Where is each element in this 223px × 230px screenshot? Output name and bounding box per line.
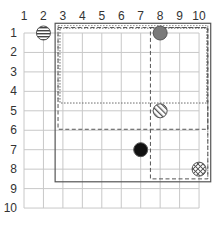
horizontal-striped-circle-icon bbox=[36, 26, 50, 40]
row-label: 9 bbox=[10, 182, 17, 196]
dashed-rect-wide bbox=[58, 28, 208, 130]
black-filled-circle-icon bbox=[134, 143, 148, 157]
grid-canvas: 12345678910 12345678910 bbox=[0, 0, 223, 230]
row-label: 8 bbox=[10, 162, 17, 176]
row-label: 2 bbox=[10, 45, 17, 59]
row-label: 7 bbox=[10, 143, 17, 157]
column-label: 4 bbox=[79, 9, 86, 23]
row-label: 10 bbox=[4, 201, 18, 215]
column-label: 2 bbox=[40, 9, 47, 23]
row-label: 3 bbox=[10, 65, 17, 79]
row-label: 6 bbox=[10, 123, 17, 137]
region-rectangles bbox=[55, 23, 211, 182]
column-label: 1 bbox=[21, 9, 28, 23]
row-labels: 12345678910 bbox=[4, 26, 18, 215]
row-label: 4 bbox=[10, 84, 17, 98]
column-label: 3 bbox=[60, 9, 67, 23]
row-label: 1 bbox=[10, 26, 17, 40]
diagonal-striped-circle-icon bbox=[153, 104, 167, 118]
column-label: 7 bbox=[137, 9, 144, 23]
gray-filled-circle-icon bbox=[153, 26, 167, 40]
column-label: 5 bbox=[98, 9, 105, 23]
row-label: 5 bbox=[10, 104, 17, 118]
column-label: 9 bbox=[176, 9, 183, 23]
column-label: 10 bbox=[192, 9, 206, 23]
column-label: 8 bbox=[157, 9, 164, 23]
crosshatch-circle-icon bbox=[192, 162, 206, 176]
column-label: 6 bbox=[118, 9, 125, 23]
column-labels: 12345678910 bbox=[21, 9, 206, 23]
grid-diagram: 12345678910 12345678910 bbox=[0, 0, 223, 230]
